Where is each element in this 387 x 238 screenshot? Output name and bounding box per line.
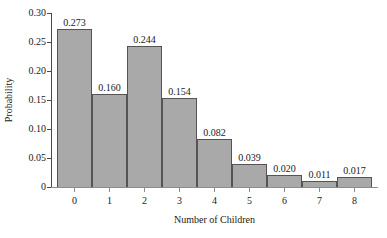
bar-slot: 0.020 (267, 13, 302, 187)
y-axis-line (51, 13, 52, 188)
x-tick-label: 0 (57, 195, 92, 207)
y-tick-mark (47, 100, 51, 101)
x-tick-mark (214, 188, 215, 192)
bar[interactable] (92, 94, 127, 187)
x-tick-mark (354, 188, 355, 192)
x-tick-mark (144, 188, 145, 192)
x-tick-label: 7 (302, 195, 337, 207)
y-tick-label: 0.15 (29, 95, 47, 105)
y-tick-label: 0 (41, 182, 46, 192)
x-tick-label: 6 (267, 195, 302, 207)
x-tick-label: 4 (197, 195, 232, 207)
y-tick-mark (47, 158, 51, 159)
bar[interactable] (302, 181, 337, 187)
y-axis-label: Probability (2, 13, 16, 187)
y-tick-label: 0.30 (29, 8, 47, 18)
probability-bar-chart: Probability 0 0.05 0.10 0.15 0.20 0.25 0… (0, 0, 387, 238)
bar-value-label: 0.017 (327, 165, 382, 176)
x-tick-label: 2 (127, 195, 162, 207)
bar[interactable] (127, 46, 162, 188)
bar-slot: 0.011 (302, 13, 337, 187)
bar[interactable] (162, 98, 197, 187)
y-tick-mark (47, 129, 51, 130)
bar[interactable] (57, 29, 92, 187)
y-tick-label: 0.05 (29, 153, 47, 163)
x-tick-mark (249, 188, 250, 192)
x-tick-mark (284, 188, 285, 192)
y-tick-mark (47, 42, 51, 43)
x-tick-label: 3 (162, 195, 197, 207)
y-tick-mark (47, 13, 51, 14)
x-tick-mark (179, 188, 180, 192)
y-tick-label: 0.20 (29, 66, 47, 76)
bar-slot: 0.154 (162, 13, 197, 187)
y-tick-mark (47, 71, 51, 72)
x-tick-label: 1 (92, 195, 127, 207)
bar[interactable] (337, 177, 372, 187)
x-tick-mark (74, 188, 75, 192)
plot-area: 0.273 0.160 0.244 0.154 0.082 0.039 0.02… (57, 13, 372, 187)
x-axis-label: Number of Children (51, 214, 378, 226)
x-tick-label: 8 (337, 195, 372, 207)
y-tick-label: 0.10 (29, 124, 47, 134)
bar-slot: 0.017 (337, 13, 372, 187)
bar-slot: 0.039 (232, 13, 267, 187)
x-tick-label: 5 (232, 195, 267, 207)
bar-slot: 0.273 (57, 13, 92, 187)
y-tick-label: 0.25 (29, 37, 47, 47)
x-tick-mark (109, 188, 110, 192)
bar-slot: 0.244 (127, 13, 162, 187)
x-tick-mark (319, 188, 320, 192)
y-tick-mark (47, 187, 51, 188)
